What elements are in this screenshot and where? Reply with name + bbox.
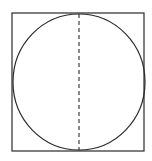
inscribed-circle-diagram <box>0 0 152 161</box>
